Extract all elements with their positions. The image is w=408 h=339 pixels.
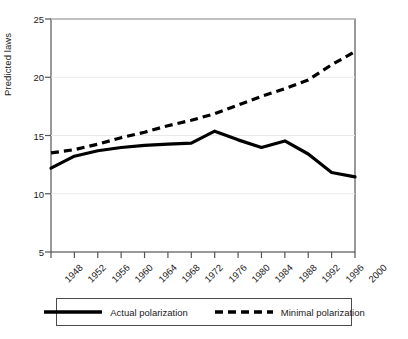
plot-area	[0, 0, 408, 339]
legend-label-minimal-polarization: Minimal polarization	[281, 307, 365, 318]
legend-swatch-solid	[43, 307, 103, 317]
legend-entry-actual-polarization: Actual polarization	[43, 307, 188, 318]
legend-swatch-dashed	[214, 307, 274, 317]
legend-label-actual-polarization: Actual polarization	[110, 307, 188, 318]
y-axis-ticks	[45, 19, 51, 252]
x-axis-ticks	[51, 252, 355, 258]
chart-figure: Predicted laws 25 20 15 10 5 19481952195…	[0, 0, 408, 339]
chart-legend: Actual polarization Minimal polarization	[56, 298, 352, 326]
legend-entry-minimal-polarization: Minimal polarization	[214, 307, 365, 318]
